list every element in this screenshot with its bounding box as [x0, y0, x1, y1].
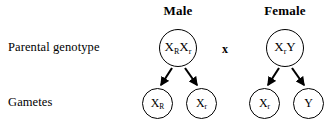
gamete-circle-male-xr-recessive: Xr [186, 88, 217, 119]
allele-single: Y [304, 97, 313, 111]
row-label-gametes: Gametes [8, 95, 52, 110]
allele-base: X [259, 96, 268, 110]
allele-pair-male: XRXr [165, 40, 192, 56]
allele-single: Xr [259, 97, 270, 111]
column-header-male: Male [164, 3, 193, 19]
column-header-female: Female [264, 3, 306, 19]
allele-subscript: r [268, 102, 270, 111]
row-label-parental-genotype: Parental genotype [8, 40, 100, 55]
allele-subscript: r [205, 102, 207, 111]
parental-genotype-female-circle: XrY [266, 29, 304, 67]
allele-subscript: R [159, 102, 164, 111]
allele-base: X [274, 39, 283, 54]
gamete-circle-female-xr-recessive: Xr [249, 88, 280, 119]
allele-base: Y [286, 39, 295, 54]
allele-single: Xr [196, 97, 207, 111]
allele-single: XR [151, 97, 165, 111]
parental-genotype-male-circle: XRXr [159, 29, 197, 67]
allele-base: X [196, 96, 205, 110]
arrow-female-to-gamete-left [268, 68, 279, 85]
allele-base: X [165, 39, 174, 54]
gamete-circle-male-xr-dominant: XR [142, 88, 173, 119]
arrow-female-to-gamete-right [292, 68, 304, 85]
allele-pair-female: XrY [274, 40, 295, 56]
arrow-male-to-gamete-right [185, 68, 197, 85]
arrow-male-to-gamete-left [161, 68, 172, 85]
allele-base: X [179, 39, 188, 54]
gamete-circle-female-y: Y [293, 88, 324, 119]
genetic-cross-diagram: Male Female Parental genotype Gametes XR… [0, 0, 334, 126]
allele-subscript: r [189, 47, 192, 56]
allele-base: Y [304, 96, 313, 110]
cross-symbol: x [218, 42, 232, 57]
